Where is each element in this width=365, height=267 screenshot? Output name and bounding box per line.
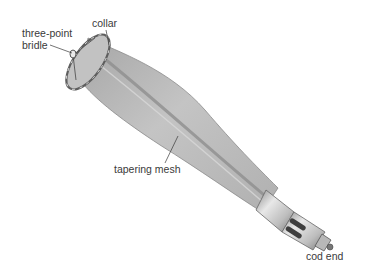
mesh-seam <box>100 55 270 200</box>
label-cod-end: cod end <box>306 250 343 262</box>
cod-end <box>256 190 333 251</box>
label-tapering-mesh: tapering mesh <box>114 163 181 175</box>
bridle-ring <box>70 50 76 58</box>
label-three-point-bridle: three-point bridle <box>22 27 72 51</box>
plankton-net-diagram: three-point bridle collar tapering mesh … <box>0 0 365 267</box>
label-collar: collar <box>92 17 117 29</box>
